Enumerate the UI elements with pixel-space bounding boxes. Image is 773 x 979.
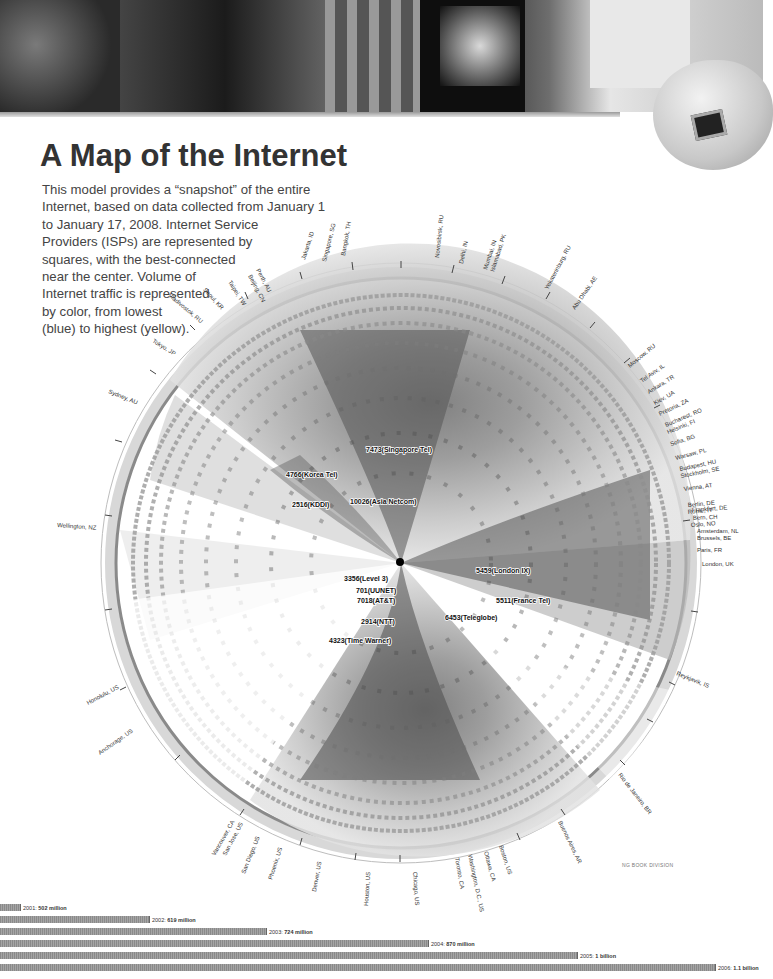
isp-label-teleglobe: 6453(Teleglobe) [445,614,497,622]
bar-label: 2001: 502 million [23,905,67,911]
bar [0,952,578,959]
city-label: Houston, US [363,872,371,906]
credit-text: NG BOOK DIVISION [622,862,673,868]
bar-row-2002: 2002: 619 million [0,916,196,923]
city-label: Anchorage, US [97,728,134,756]
isp-label-london-ix: 5459(London IX) [476,567,530,575]
city-label: Buenos Aires, AR [557,820,583,865]
city-label: Rio de Janeiro, BR [617,772,653,816]
bar [0,940,429,947]
bar-row-2003: 2003: 724 million [0,928,313,935]
isp-label-singapore-tel: 7473(Singapore Tel) [366,446,432,454]
center-node [396,558,404,566]
city-label: Sydney, AU [108,388,139,405]
city-label: Tokyo, JP [151,338,176,357]
bar-row-2004: 2004: 870 million [0,940,475,947]
bar [0,916,150,923]
city-label: Chicago, US [412,872,420,906]
isp-label-korea-tel: 4766(Korea Tel) [286,471,338,479]
city-label: Phoenix, US [267,847,283,881]
isp-label-asia-netcom: 10026(Asia Netcom) [350,498,417,506]
isp-label-level3: 3356(Level 3) [344,575,388,583]
bar-row-2005: 2005: 1 billion [0,952,616,959]
network-disk [120,243,690,856]
isp-label-kddi: 2516(KDDI) [292,501,329,509]
city-label: Reykjavik, IS [676,670,710,689]
city-label: Yekaterinburg, RU [544,245,572,291]
city-label: Paris, FR [697,547,723,553]
city-label: Frankfurt, DE [692,505,728,513]
city-label: Taipei, TW [227,279,247,306]
bar-label: 2003: 724 million [269,929,313,935]
bar-label: 2002: 619 million [152,917,196,923]
isp-label-uunet: 701(UUNET) [356,587,396,595]
bar-label: 2005: 1 billion [580,953,616,959]
city-label: Amsterdam, NL [697,528,739,534]
bar-row-2006: 2006: 1.1 billion [0,964,759,971]
city-label: Oslo, NO [691,520,716,528]
city-label: Washington, D.C., US [467,854,485,912]
city-label: Boston, US [498,844,513,875]
city-label: Vladivostok, RU [167,292,204,324]
city-label: Brussels, BE [697,535,731,541]
city-label: San Diego, US [240,835,260,874]
bar [0,904,21,911]
bar [0,964,716,971]
bar-label: 2006: 1.1 billion [718,965,759,971]
city-label: Toronto, CA [454,857,465,889]
city-label: Ottawa, CA [483,851,497,882]
city-label: Vienna, AT [683,482,713,492]
city-label: Honolulu, US [86,684,120,706]
isp-label-france-tel: 5511(France Tel) [496,597,550,605]
city-label: London, UK [702,561,734,567]
city-label: Seoul, KR [202,287,225,312]
city-label: Denver, US [311,861,322,892]
bar-row-2001: 2001: 502 million [0,904,67,911]
isp-label-att: 7018(AT&T) [357,597,395,605]
bar [0,928,267,935]
bar-label: 2004: 870 million [431,941,475,947]
isp-label-time-warner: 4323(Time Warner) [329,637,391,645]
city-label: Jakarta, ID [300,230,315,260]
isp-label-ntt: 2914(NTT) [361,618,395,626]
city-label: Wellington, NZ [57,522,97,531]
